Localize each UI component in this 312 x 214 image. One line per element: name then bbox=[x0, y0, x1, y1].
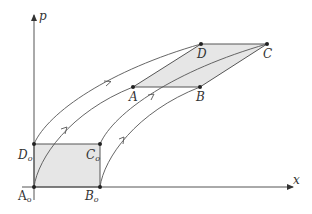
point-d bbox=[199, 42, 203, 46]
flow-arrow-icon bbox=[148, 94, 154, 100]
point-b bbox=[198, 85, 202, 89]
point-a bbox=[131, 85, 135, 89]
point-d0 bbox=[32, 142, 36, 146]
diagram-canvas: x p Ao Bo Co Do A B C D bbox=[0, 0, 312, 214]
phase-space-diagram: x p Ao Bo Co Do A B C D bbox=[0, 0, 312, 214]
label-a: A bbox=[128, 90, 138, 104]
point-a0 bbox=[32, 185, 36, 189]
point-b0 bbox=[98, 185, 102, 189]
point-c0 bbox=[98, 142, 102, 146]
point-c bbox=[265, 42, 269, 46]
label-b: B bbox=[195, 90, 205, 104]
label-c: C bbox=[263, 47, 272, 61]
x-axis-label: x bbox=[293, 173, 300, 187]
label-b0: Bo bbox=[84, 189, 99, 204]
label-d: D bbox=[196, 47, 207, 61]
trajectory-b0-b bbox=[100, 87, 200, 187]
label-a0: Ao bbox=[17, 189, 32, 204]
label-d0: Do bbox=[17, 148, 33, 163]
y-axis-label: p bbox=[39, 9, 47, 23]
